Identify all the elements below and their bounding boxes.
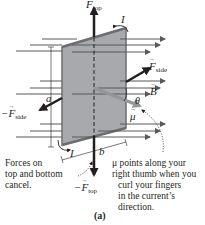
neg-f-top-symbol: F	[81, 182, 88, 193]
mu-note-line-4: in the current’s	[112, 191, 196, 202]
neg-f-side-subscript: side	[15, 113, 26, 121]
mu-note-line-2: right thumb when you	[112, 169, 196, 180]
figure-caption: (a)	[94, 211, 106, 221]
f-side-symbol: F	[149, 61, 156, 72]
f-top-symbol: F	[86, 0, 93, 10]
mu-note-line-1: μ points along your	[112, 158, 196, 169]
f-top-label: Ftop	[86, 0, 102, 12]
f-side-label: Fside	[149, 61, 167, 74]
current-label-top: I	[121, 14, 125, 25]
forces-cancel-note: Forces on top and bottom cancel.	[5, 158, 63, 191]
neg-f-top-subscript: top	[88, 187, 97, 195]
f-side-subscript: side	[156, 66, 167, 74]
mu-symbol: μ	[130, 111, 136, 122]
neg-f-side-symbol: F	[8, 108, 15, 119]
leader-forces-cancel	[78, 162, 92, 176]
mu-label: μ	[130, 111, 136, 122]
f-top-subscript: top	[93, 4, 102, 12]
current-label-bottom: I	[70, 148, 74, 159]
f-side-arrow	[126, 68, 150, 82]
dimension-b-label: b	[99, 146, 105, 157]
mu-note-line-5: direction.	[112, 202, 196, 213]
forces-cancel-line-3: cancel.	[5, 180, 63, 191]
mu-direction-note: μ points along your right thumb when you…	[112, 158, 196, 213]
b-field-label: B	[150, 86, 157, 97]
neg-f-top-label: −Ftop	[74, 182, 97, 195]
neg-f-side-label: −Fside	[1, 108, 26, 121]
mu-note-line-3: curl your fingers	[112, 180, 196, 191]
dimension-a-label: a	[46, 93, 52, 104]
forces-cancel-line-2: top and bottom	[5, 169, 63, 180]
b-field-symbol: B	[150, 86, 157, 97]
magnetic-torque-diagram: Ftop I Fside B θ μ a −Fside I b −Ftop Fo…	[0, 0, 205, 225]
forces-cancel-line-1: Forces on	[5, 158, 63, 169]
theta-label: θ	[135, 96, 140, 106]
